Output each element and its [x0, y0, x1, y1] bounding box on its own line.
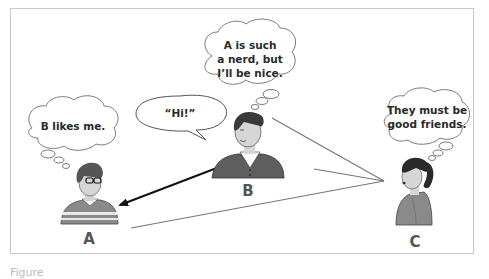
speech-bubble-b: “Hi!” — [136, 95, 227, 140]
speech-text-b: “Hi!” — [165, 107, 196, 119]
thought-text-a: B likes me. — [41, 120, 106, 132]
thought-text-c-line2: good friends. — [388, 118, 467, 130]
person-a-label: A — [83, 230, 95, 248]
person-a-illustration — [61, 163, 118, 224]
thought-bubble-a: B likes me. — [29, 96, 118, 169]
thought-text-b-line2: a nerd, but — [217, 53, 283, 65]
line-a-to-c — [131, 181, 384, 228]
thought-text-b-line3: I’ll be nice. — [217, 67, 282, 79]
thought-text-b-line1: A is such — [224, 39, 277, 51]
person-c-label: C — [409, 233, 420, 251]
person-c-illustration — [396, 158, 433, 225]
thought-bubble-c: They must be good friends. — [384, 88, 469, 161]
thought-text-c-line1: They must be — [387, 104, 467, 116]
person-b-label: B — [242, 182, 253, 200]
arrow-b-to-a — [120, 166, 222, 205]
figure-caption-partial: Figure — [10, 266, 44, 279]
thought-bubble-b: A is such a nerd, but I’ll be nice. — [205, 19, 296, 109]
